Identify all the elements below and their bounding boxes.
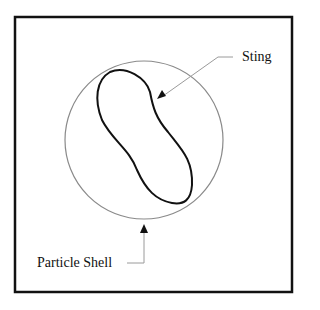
particle-shell-circle [65, 61, 223, 219]
sting-label: Sting [242, 50, 272, 64]
sting-arrowhead-icon [157, 90, 166, 99]
sting-shape [97, 70, 192, 203]
sting-leader-line [163, 57, 233, 96]
particle-shell-label: Particle Shell [37, 256, 112, 270]
shell-arrowhead-icon [140, 224, 148, 233]
shell-leader-line [127, 231, 144, 263]
